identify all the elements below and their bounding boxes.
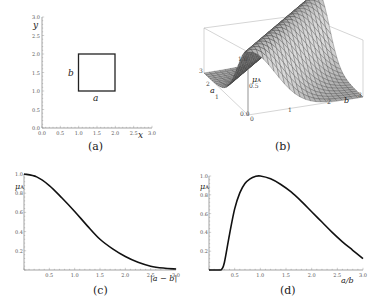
axis-label-a: a bbox=[210, 86, 215, 95]
svg-text:2.5: 2.5 bbox=[130, 130, 138, 136]
svg-text:1.0: 1.0 bbox=[238, 55, 248, 62]
y-axis-label-c: μA bbox=[15, 182, 24, 191]
panel-c: 0.51.01.52.02.53.00.20.40.60.81.0 μA |a … bbox=[0, 152, 187, 305]
svg-text:0.5: 0.5 bbox=[231, 272, 239, 278]
side-label-b: b bbox=[68, 68, 74, 78]
x-axis-label: x bbox=[138, 130, 143, 140]
svg-text:0.6: 0.6 bbox=[200, 211, 208, 217]
x-axis-label-c: |a − b| bbox=[150, 274, 177, 283]
svg-text:0.4: 0.4 bbox=[200, 229, 208, 235]
svg-text:1.5: 1.5 bbox=[96, 272, 104, 278]
panel-c-axes bbox=[24, 174, 176, 270]
svg-text:1: 1 bbox=[215, 93, 219, 100]
svg-text:0.0: 0.0 bbox=[32, 125, 40, 131]
axis-label-b: b bbox=[344, 96, 349, 105]
y-axis-label-d: μA bbox=[200, 182, 209, 191]
svg-text:0.0: 0.0 bbox=[240, 110, 250, 117]
svg-text:1.5: 1.5 bbox=[282, 272, 290, 278]
svg-text:0.4: 0.4 bbox=[15, 229, 23, 235]
svg-text:0.8: 0.8 bbox=[200, 192, 208, 198]
caption-b: (b) bbox=[275, 140, 291, 152]
svg-text:1: 1 bbox=[288, 106, 292, 113]
svg-text:0.6: 0.6 bbox=[15, 209, 23, 215]
svg-text:3.0: 3.0 bbox=[148, 130, 156, 136]
svg-text:0.5: 0.5 bbox=[56, 130, 64, 136]
panel-a: 0.00.51.01.52.02.53.00.00.51.01.52.02.53… bbox=[0, 0, 187, 152]
svg-text:2.0: 2.0 bbox=[111, 130, 119, 136]
axis-label-mu: μA bbox=[252, 75, 261, 84]
caption-d: (d) bbox=[280, 284, 296, 297]
x-axis-label-d: a/b bbox=[341, 276, 354, 285]
svg-text:1.0: 1.0 bbox=[200, 173, 208, 179]
svg-text:3.0: 3.0 bbox=[359, 272, 367, 278]
svg-text:1.5: 1.5 bbox=[93, 130, 101, 136]
y-axis-label: y bbox=[32, 20, 39, 30]
svg-text:1.0: 1.0 bbox=[256, 272, 264, 278]
svg-text:0.5: 0.5 bbox=[32, 107, 40, 113]
svg-text:2.0: 2.0 bbox=[32, 51, 40, 57]
curve-d bbox=[209, 176, 363, 270]
caption-a: (a) bbox=[88, 140, 103, 152]
panel-d: 0.51.01.52.02.53.00.20.40.60.81.0 μA a/b… bbox=[187, 152, 374, 305]
panel-b: 3 2 1 0.0 0.5 1.0 0 1 2 3 a b μA (b) bbox=[187, 0, 374, 152]
panel-a-ticks: 0.00.51.01.52.02.53.00.00.51.01.52.02.53… bbox=[32, 14, 156, 136]
caption-c: (c) bbox=[93, 284, 108, 297]
svg-text:1.5: 1.5 bbox=[32, 70, 40, 76]
svg-text:2: 2 bbox=[327, 98, 331, 105]
square-shape bbox=[79, 54, 116, 91]
svg-text:0.8: 0.8 bbox=[15, 190, 23, 196]
svg-text:3: 3 bbox=[358, 91, 362, 98]
panel-a-axes bbox=[42, 17, 152, 128]
svg-text:1.0: 1.0 bbox=[15, 171, 23, 177]
curve-c bbox=[24, 174, 176, 269]
svg-text:1.0: 1.0 bbox=[32, 88, 40, 94]
panel-c-ticks: 0.51.01.52.02.53.00.20.40.60.81.0 bbox=[15, 171, 180, 278]
svg-text:1.0: 1.0 bbox=[75, 130, 83, 136]
svg-text:2.5: 2.5 bbox=[32, 33, 40, 39]
svg-text:2.0: 2.0 bbox=[308, 272, 316, 278]
svg-text:1.0: 1.0 bbox=[71, 272, 79, 278]
svg-text:3: 3 bbox=[199, 67, 203, 74]
svg-text:2.0: 2.0 bbox=[121, 272, 129, 278]
svg-text:0.5: 0.5 bbox=[45, 272, 53, 278]
svg-text:0.2: 0.2 bbox=[15, 248, 23, 254]
side-label-a: a bbox=[93, 93, 98, 103]
svg-text:0: 0 bbox=[250, 115, 254, 122]
svg-text:0.2: 0.2 bbox=[200, 248, 208, 254]
